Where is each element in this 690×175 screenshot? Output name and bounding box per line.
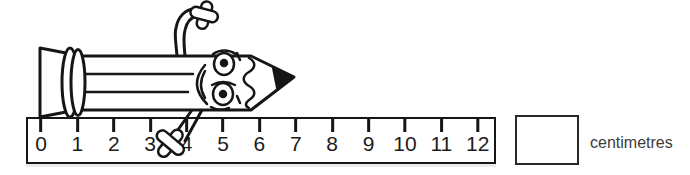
tick-mark: [331, 119, 334, 132]
lower-pupil: [220, 91, 226, 97]
ruler-mark-3: 3: [144, 119, 156, 156]
pencil-arm-line: [184, 16, 197, 56]
smile-outer: [197, 65, 207, 104]
brow-dash: [237, 96, 240, 103]
pencil-face: [197, 51, 240, 110]
chin-curve: [211, 107, 229, 110]
ruler-number: 4: [181, 132, 193, 156]
tick-mark: [440, 119, 443, 132]
ruler-number: 1: [72, 132, 84, 156]
pencil-body: [81, 56, 294, 110]
tick-mark: [476, 119, 479, 132]
ruler-number: 0: [35, 132, 47, 156]
ruler-number: 5: [217, 132, 229, 156]
ruler-number: 9: [363, 132, 375, 156]
upper-eyelid-arc: [213, 51, 236, 55]
tick-mark: [222, 119, 225, 132]
ruler-number: 11: [430, 132, 452, 156]
pencil-arm-line: [175, 9, 195, 56]
ruler-mark-1: 1: [72, 119, 84, 156]
ruler-mark-7: 7: [290, 119, 302, 156]
tick-mark: [112, 119, 115, 132]
pencil-wood-lines: [83, 74, 193, 92]
ruler-number: 10: [393, 132, 416, 156]
pencil-ferrule: [62, 48, 85, 117]
ruler-mark-0: 0: [35, 119, 47, 156]
ruler-number: 6: [254, 132, 266, 156]
ruler-mark-9: 9: [363, 119, 375, 156]
ruler-number: 12: [466, 132, 489, 156]
ruler-number: 7: [290, 132, 302, 156]
ruler-mark-5: 5: [217, 119, 229, 156]
unit-label: centimetres: [590, 134, 673, 152]
ruler-mark-12: 12: [466, 119, 489, 156]
pencil-hand-flourish: [187, 0, 221, 32]
ruler-number: 8: [326, 132, 338, 156]
ruler-mark-2: 2: [108, 119, 120, 156]
upper-eye: [214, 53, 234, 75]
pencil-end-cap: [40, 48, 66, 117]
ruler-number: 3: [144, 132, 156, 156]
ruler: 0 1 2 3 4 5 6 7 8 9 10 11 12: [26, 117, 496, 164]
ruler-mark-6: 6: [254, 119, 266, 156]
answer-box[interactable]: [515, 115, 579, 165]
measurement-worksheet: 0 1 2 3 4 5 6 7 8 9 10 11 12 centimetres: [0, 0, 690, 175]
upper-pupil: [221, 60, 227, 66]
tick-mark: [294, 119, 297, 132]
tick-mark: [149, 119, 152, 132]
lower-eye: [213, 83, 233, 105]
ruler-mark-8: 8: [326, 119, 338, 156]
ruler-mark-10: 10: [393, 119, 416, 156]
ruler-number: 2: [108, 132, 120, 156]
ruler-mark-11: 11: [430, 119, 452, 156]
tick-mark: [40, 119, 43, 132]
lower-eyelid-arc: [212, 82, 235, 85]
brow-dash: [237, 53, 240, 60]
pencil-sharpened-collar: [244, 58, 255, 108]
tick-mark: [76, 119, 79, 132]
ruler-mark-4: 4: [181, 119, 193, 156]
tick-mark: [185, 119, 188, 132]
pencil-graphite-tip: [273, 68, 294, 88]
tick-mark: [258, 119, 261, 132]
tick-mark: [367, 119, 370, 132]
tick-mark: [403, 119, 406, 132]
smile-inner: [201, 71, 205, 98]
